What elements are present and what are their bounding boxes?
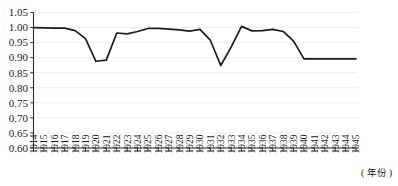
- y-tick-label: 0.95: [9, 36, 29, 48]
- x-tick-label: 1922: [112, 134, 122, 153]
- x-tick-label: 1923: [123, 134, 133, 153]
- x-tick-label: 1915: [39, 134, 49, 153]
- x-tick-label: 1943: [331, 134, 341, 153]
- x-tick-label: 1928: [175, 134, 185, 153]
- x-tick-label: 1919: [81, 134, 91, 153]
- x-tick-label: 1929: [185, 134, 195, 153]
- x-axis-label: ( 年份 ): [361, 167, 392, 179]
- x-tick-label: 1945: [351, 134, 361, 153]
- line-chart: 0.600.650.700.750.800.850.900.951.001.05…: [0, 0, 398, 186]
- x-tick-label: 1939: [289, 134, 299, 153]
- data-series-line: [34, 26, 357, 65]
- y-tick-label: 0.85: [9, 67, 29, 79]
- x-tick-label: 1930: [195, 134, 205, 153]
- x-tick-label: 1940: [299, 134, 309, 153]
- x-tick-label: 1926: [154, 134, 164, 153]
- y-tick-label: 1.00: [9, 21, 29, 33]
- x-tick-label: 1925: [143, 134, 153, 153]
- x-tick-label: 1936: [258, 134, 268, 153]
- x-tick-label: 1916: [50, 134, 60, 153]
- x-tick-label: 1933: [227, 134, 237, 153]
- x-tick-label: 1931: [206, 134, 216, 153]
- x-tick-label: 1934: [237, 134, 247, 153]
- x-tick-label: 1917: [60, 134, 70, 153]
- x-tick-label: 1932: [216, 134, 226, 153]
- chart-container: 0.600.650.700.750.800.850.900.951.001.05…: [0, 0, 398, 186]
- y-tick-label: 1.05: [9, 6, 29, 18]
- y-tick-label: 0.75: [9, 97, 29, 109]
- x-tick-label: 1937: [268, 134, 278, 153]
- x-tick-label: 1920: [91, 134, 101, 153]
- gridlines: [34, 13, 359, 149]
- y-tick-label: 0.80: [9, 82, 29, 94]
- y-tick-label: 0.70: [9, 112, 29, 124]
- x-tick-label: 1918: [71, 134, 81, 153]
- x-tick-label: 1935: [247, 134, 257, 153]
- x-tick-label: 1914: [29, 134, 39, 153]
- x-tick-label: 1924: [133, 134, 143, 153]
- y-tick-label: 0.65: [9, 127, 29, 139]
- y-tick-label: 0.60: [9, 142, 29, 154]
- x-tick-label: 1921: [102, 134, 112, 153]
- x-tick-label: 1944: [341, 134, 351, 153]
- y-tick-label: 0.90: [9, 51, 29, 63]
- x-tick-label: 1941: [310, 134, 320, 153]
- y-axis-tick-labels: 0.600.650.700.750.800.850.900.951.001.05: [9, 6, 29, 154]
- x-axis-tick-labels: 1914191519161917191819191920192119221923…: [29, 134, 362, 153]
- x-tick-label: 1927: [164, 134, 174, 153]
- x-tick-label: 1942: [320, 134, 330, 153]
- x-tick-label: 1938: [279, 134, 289, 153]
